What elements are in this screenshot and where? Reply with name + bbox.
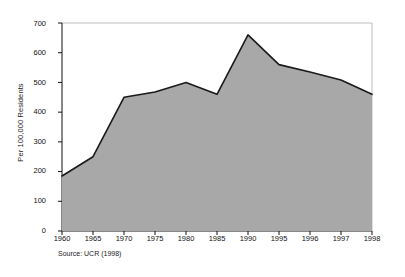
source-note: Source: UCR (1998): [58, 250, 121, 257]
x-tick-label-1996: 1996: [293, 234, 327, 243]
y-tick-label-200: 200: [20, 166, 46, 175]
y-axis-ticks: [58, 23, 62, 231]
y-tick-label-500: 500: [20, 78, 46, 87]
y-tick-label-700: 700: [20, 19, 46, 28]
x-tick-label-1980: 1980: [169, 234, 203, 243]
x-tick-label-1995: 1995: [262, 234, 296, 243]
x-tick-label-1975: 1975: [138, 234, 172, 243]
y-tick-label-300: 300: [20, 137, 46, 146]
y-tick-label-400: 400: [20, 107, 46, 116]
x-tick-label-1998: 1998: [355, 234, 389, 243]
y-tick-label-0: 0: [20, 226, 46, 235]
x-tick-label-1985: 1985: [200, 234, 234, 243]
x-tick-label-1990: 1990: [231, 234, 265, 243]
y-tick-label-100: 100: [20, 196, 46, 205]
area-series-fill: [62, 35, 372, 231]
x-tick-label-1970: 1970: [107, 234, 141, 243]
chart-container: Per 100,000 Residents 700 600 500 400 30…: [0, 0, 405, 277]
x-tick-label-1960: 1960: [45, 234, 79, 243]
x-tick-label-1965: 1965: [76, 234, 110, 243]
x-tick-label-1997: 1997: [324, 234, 358, 243]
y-tick-label-600: 600: [20, 48, 46, 57]
